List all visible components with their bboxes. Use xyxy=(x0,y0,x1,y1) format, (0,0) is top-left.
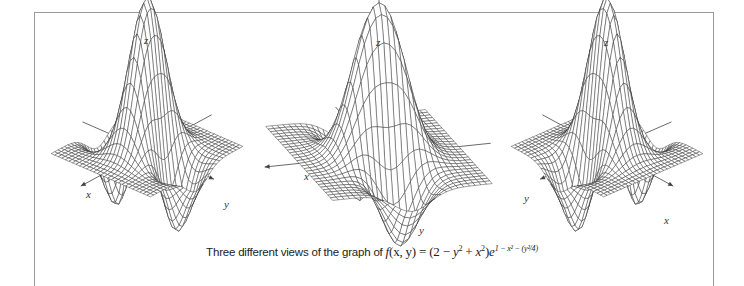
y-axis-label: y xyxy=(223,198,229,210)
surface-view-2: zxy xyxy=(265,0,493,246)
formula-part: = (2 − xyxy=(416,244,453,259)
x-axis-label: x xyxy=(663,214,669,226)
caption-prefix: Three different views of the graph of xyxy=(206,246,386,258)
surface-view-1: zxy xyxy=(51,0,243,231)
y-axis-label: y xyxy=(523,192,529,204)
y-axis-label: y xyxy=(418,224,424,236)
x-axis-label: x xyxy=(303,170,309,182)
formula-plus: + xyxy=(462,244,475,259)
exp-exponent: 1 − x² − (y²/4) xyxy=(495,244,538,253)
axis-arrow-icon xyxy=(265,164,270,168)
surface-view-3: zxy xyxy=(511,0,703,231)
func-args: (x, y) xyxy=(389,244,416,259)
z-axis-label: z xyxy=(603,36,609,48)
wireframe-surface xyxy=(511,0,703,231)
x-axis-label: x xyxy=(85,188,91,200)
caption-formula: f(x, y) = (2 − y2 + x2)e1 − x² − (y²/4) xyxy=(386,244,538,259)
z-axis-label: z xyxy=(143,34,149,46)
figure-caption: Three different views of the graph of f(… xyxy=(0,244,744,260)
z-axis-label: z xyxy=(375,36,381,48)
